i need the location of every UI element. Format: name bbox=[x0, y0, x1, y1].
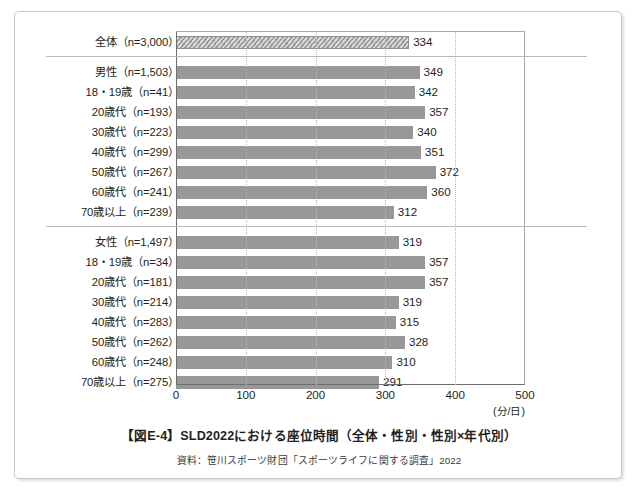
bar bbox=[176, 86, 415, 99]
bar-value-label: 342 bbox=[415, 82, 438, 102]
bar-track: 349 bbox=[176, 62, 525, 82]
bar bbox=[176, 296, 399, 309]
category-label: 60歳代（n=241） bbox=[92, 182, 179, 202]
bar-value-label: 360 bbox=[427, 182, 450, 202]
bar-track: 357 bbox=[176, 102, 525, 122]
bar-track: 319 bbox=[176, 232, 525, 252]
chart-row: 70歳以上（n=239）312 bbox=[15, 202, 623, 222]
figure-source-note: 資料：笹川スポーツ財団「スポーツライフに関する調査」2022 bbox=[15, 453, 623, 467]
category-label: 70歳以上（n=275） bbox=[81, 372, 179, 392]
category-label: 20歳代（n=193） bbox=[92, 102, 179, 122]
chart-row: 60歳代（n=241）360 bbox=[15, 182, 623, 202]
x-tick-label: 300 bbox=[376, 388, 395, 401]
chart-row: 30歳代（n=223）340 bbox=[15, 122, 623, 142]
bar bbox=[176, 66, 420, 79]
category-label: 女性（n=1,497） bbox=[95, 232, 179, 252]
bar-value-label: 319 bbox=[399, 292, 422, 312]
bar-track: 328 bbox=[176, 332, 525, 352]
bar-value-label: 357 bbox=[425, 272, 448, 292]
x-tick-label: 100 bbox=[236, 388, 255, 401]
category-label: 40歳代（n=283） bbox=[92, 312, 179, 332]
chart-row: 50歳代（n=267）372 bbox=[15, 162, 623, 182]
category-label: 50歳代（n=262） bbox=[92, 332, 179, 352]
category-label: 20歳代（n=181） bbox=[92, 272, 179, 292]
chart-row: 30歳代（n=214）319 bbox=[15, 292, 623, 312]
figure-card: 全体（n=3,000）334男性（n=1,503）34918・19歳（n=41）… bbox=[14, 11, 622, 479]
category-label: 男性（n=1,503） bbox=[95, 62, 179, 82]
grid-line bbox=[455, 31, 456, 385]
category-label: 50歳代（n=267） bbox=[92, 162, 179, 182]
bar-value-label: 328 bbox=[405, 332, 428, 352]
x-axis-unit-label: (分/日) bbox=[493, 403, 525, 418]
category-label: 70歳以上（n=239） bbox=[81, 202, 179, 222]
bar-track: 351 bbox=[176, 142, 525, 162]
bar bbox=[176, 106, 425, 119]
bar bbox=[176, 336, 405, 349]
bar-track: 357 bbox=[176, 252, 525, 272]
x-tick-label: 500 bbox=[515, 388, 534, 401]
grid-line bbox=[385, 31, 386, 385]
bar-track: 312 bbox=[176, 202, 525, 222]
group-separator bbox=[46, 226, 587, 227]
bar bbox=[176, 36, 409, 49]
bar bbox=[176, 166, 436, 179]
group-separator bbox=[46, 56, 587, 57]
bar-value-label: 319 bbox=[399, 232, 422, 252]
category-label: 18・19歳（n=34） bbox=[86, 252, 179, 272]
category-label: 30歳代（n=214） bbox=[92, 292, 179, 312]
bar bbox=[176, 146, 421, 159]
bar-value-label: 351 bbox=[421, 142, 444, 162]
chart-row: 全体（n=3,000）334 bbox=[15, 32, 623, 52]
bar-value-label: 357 bbox=[425, 102, 448, 122]
x-tick-label: 0 bbox=[173, 388, 179, 401]
chart-row: 50歳代（n=262）328 bbox=[15, 332, 623, 352]
bar bbox=[176, 236, 399, 249]
bar-track: 357 bbox=[176, 272, 525, 292]
bar bbox=[176, 316, 396, 329]
sedentary-time-bar-chart: 全体（n=3,000）334男性（n=1,503）34918・19歳（n=41）… bbox=[15, 12, 623, 480]
bar-track: 360 bbox=[176, 182, 525, 202]
category-label: 30歳代（n=223） bbox=[92, 122, 179, 142]
chart-row: 20歳代（n=193）357 bbox=[15, 102, 623, 122]
bar-track: 342 bbox=[176, 82, 525, 102]
bar-value-label: 312 bbox=[394, 202, 417, 222]
x-tick-label: 200 bbox=[306, 388, 325, 401]
chart-row: 18・19歳（n=34）357 bbox=[15, 252, 623, 272]
category-label: 40歳代（n=299） bbox=[92, 142, 179, 162]
x-tick-label: 400 bbox=[446, 388, 465, 401]
bar-track: 334 bbox=[176, 32, 525, 52]
bar-value-label: 315 bbox=[396, 312, 419, 332]
chart-row: 男性（n=1,503）349 bbox=[15, 62, 623, 82]
bar-value-label: 357 bbox=[425, 252, 448, 272]
chart-row: 40歳代（n=283）315 bbox=[15, 312, 623, 332]
grid-line bbox=[316, 31, 317, 385]
chart-row: 60歳代（n=248）310 bbox=[15, 352, 623, 372]
chart-row: 女性（n=1,497）319 bbox=[15, 232, 623, 252]
bar bbox=[176, 256, 425, 269]
bar bbox=[176, 126, 413, 139]
category-label: 60歳代（n=248） bbox=[92, 352, 179, 372]
chart-row: 18・19歳（n=41）342 bbox=[15, 82, 623, 102]
bar-track: 319 bbox=[176, 292, 525, 312]
bar bbox=[176, 206, 394, 219]
grid-line bbox=[246, 31, 247, 385]
bar bbox=[176, 376, 379, 389]
bar bbox=[176, 276, 425, 289]
bar-track: 340 bbox=[176, 122, 525, 142]
bar-track: 291 bbox=[176, 372, 525, 392]
bar-value-label: 310 bbox=[392, 352, 415, 372]
bar-value-label: 334 bbox=[409, 32, 432, 52]
chart-row: 20歳代（n=181）357 bbox=[15, 272, 623, 292]
chart-row: 40歳代（n=299）351 bbox=[15, 142, 623, 162]
bar-value-label: 340 bbox=[413, 122, 436, 142]
figure-title: 【図E-4】SLD2022における座位時間（全体・性別・性別×年代別） bbox=[15, 425, 623, 444]
category-label: 全体（n=3,000） bbox=[95, 32, 179, 52]
bar-track: 372 bbox=[176, 162, 525, 182]
bar bbox=[176, 186, 427, 199]
bar bbox=[176, 356, 392, 369]
category-label: 18・19歳（n=41） bbox=[86, 82, 179, 102]
bar-track: 310 bbox=[176, 352, 525, 372]
bar-value-label: 349 bbox=[420, 62, 443, 82]
bar-track: 315 bbox=[176, 312, 525, 332]
